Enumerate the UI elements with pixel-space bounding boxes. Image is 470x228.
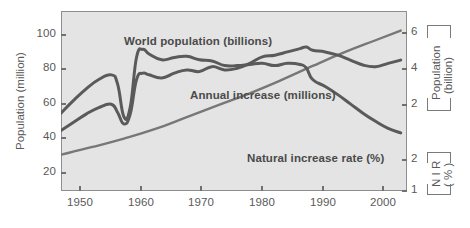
- label-natural-increase-rate: Natural increase rate (%): [247, 152, 384, 164]
- label-annual-increase: Annual increase (millions): [190, 89, 336, 101]
- label-world-population: World population (billions): [124, 35, 272, 47]
- population-chart: 100 80 60 40 20 Population (million) 6 4…: [0, 0, 470, 228]
